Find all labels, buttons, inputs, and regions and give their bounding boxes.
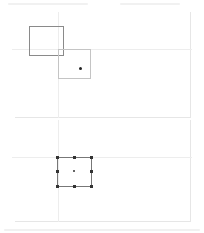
resize-handle-middle-left[interactable]	[56, 170, 59, 173]
center-point	[73, 170, 75, 172]
resize-handle-bottom-right[interactable]	[90, 185, 93, 188]
resize-handle-top-right[interactable]	[90, 156, 93, 159]
resize-handle-bottom-center[interactable]	[73, 185, 76, 188]
selected-rectangle[interactable]	[57, 157, 92, 187]
resize-handle-bottom-left[interactable]	[56, 185, 59, 188]
resize-handle-top-left[interactable]	[56, 156, 59, 159]
resize-handle-top-center[interactable]	[73, 156, 76, 159]
frame-bottom-edge	[15, 221, 191, 222]
resize-handle-middle-right[interactable]	[90, 170, 93, 173]
frame-right-edge	[190, 120, 191, 221]
panel-after	[0, 0, 204, 233]
horizontal-guide	[12, 157, 192, 158]
